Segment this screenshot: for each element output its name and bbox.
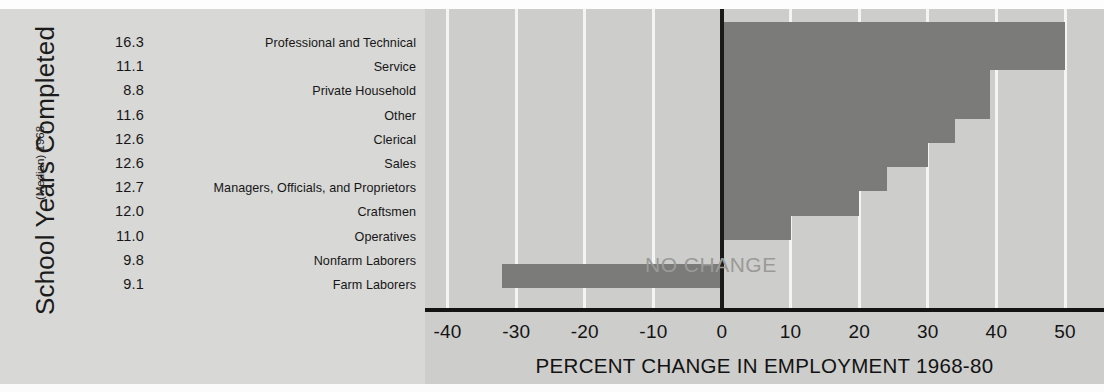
bottom-margin-strip xyxy=(0,384,1104,392)
bar xyxy=(722,191,859,215)
category-legend-panel: School Years Completed (Median) 1968 16.… xyxy=(0,9,425,384)
category-row: 12.0Craftsmen xyxy=(0,200,425,224)
no-change-annotation: NO CHANGE xyxy=(645,253,777,277)
median-school-years-value: 8.8 xyxy=(88,82,144,98)
occupation-label: Managers, Officials, and Proprietors xyxy=(150,181,416,195)
x-tick-label: 50 xyxy=(1035,321,1095,343)
category-row: 16.3Professional and Technical xyxy=(0,31,425,55)
plot-area: NO CHANGE xyxy=(425,9,1104,308)
bar xyxy=(722,95,990,119)
median-school-years-value: 11.6 xyxy=(88,107,144,123)
gridline xyxy=(446,9,449,308)
occupation-label: Clerical xyxy=(150,133,416,147)
median-school-years-value: 9.1 xyxy=(88,276,144,292)
category-row: 9.8Nonfarm Laborers xyxy=(0,249,425,273)
x-tick-label: 30 xyxy=(898,321,958,343)
x-tick-label: 20 xyxy=(829,321,889,343)
category-row: 12.7Managers, Officials, and Proprietors xyxy=(0,176,425,200)
bar xyxy=(722,70,990,94)
bar xyxy=(722,216,791,240)
occupation-label: Professional and Technical xyxy=(150,36,416,50)
median-school-years-value: 12.6 xyxy=(88,155,144,171)
occupation-label: Farm Laborers xyxy=(150,278,416,292)
category-row: 8.8Private Household xyxy=(0,79,425,103)
bar xyxy=(722,167,887,191)
x-tick-label: -30 xyxy=(486,321,546,343)
occupation-label: Private Household xyxy=(150,84,416,98)
x-tick-label: -10 xyxy=(623,321,683,343)
occupation-label: Operatives xyxy=(150,230,416,244)
median-school-years-value: 12.0 xyxy=(88,203,144,219)
category-row: 9.1Farm Laborers xyxy=(0,273,425,297)
median-school-years-value: 12.6 xyxy=(88,131,144,147)
occupation-label: Craftsmen xyxy=(150,205,416,219)
bar xyxy=(722,143,928,167)
median-school-years-value: 11.1 xyxy=(88,58,144,74)
x-tick-label: 0 xyxy=(692,321,752,343)
category-row: 11.1Service xyxy=(0,55,425,79)
x-axis-title: PERCENT CHANGE IN EMPLOYMENT 1968-80 xyxy=(425,354,1104,378)
category-rows: 16.3Professional and Technical11.1Servic… xyxy=(0,31,425,297)
bar xyxy=(722,46,1065,70)
x-tick-label: 10 xyxy=(761,321,821,343)
median-school-years-value: 12.7 xyxy=(88,179,144,195)
x-tick-label: -40 xyxy=(418,321,478,343)
median-school-years-value: 9.8 xyxy=(88,252,144,268)
bar xyxy=(722,22,1065,46)
median-school-years-value: 11.0 xyxy=(88,228,144,244)
category-row: 11.0Operatives xyxy=(0,225,425,249)
occupation-label: Other xyxy=(150,109,416,123)
plot-panel: NO CHANGE -40-30-20-1001020304050 PERCEN… xyxy=(425,9,1104,384)
top-clipped-strip xyxy=(0,0,1104,9)
bar xyxy=(722,119,955,143)
x-tick-label: 40 xyxy=(966,321,1026,343)
occupation-label: Nonfarm Laborers xyxy=(150,254,416,268)
occupation-label: Service xyxy=(150,60,416,74)
x-axis-line xyxy=(425,308,1104,312)
category-row: 12.6Sales xyxy=(0,152,425,176)
category-row: 11.6Other xyxy=(0,104,425,128)
occupation-label: Sales xyxy=(150,157,416,171)
median-school-years-value: 16.3 xyxy=(88,34,144,50)
x-tick-label: -20 xyxy=(555,321,615,343)
chart-figure: School Years Completed (Median) 1968 16.… xyxy=(0,0,1104,392)
category-row: 12.6Clerical xyxy=(0,128,425,152)
